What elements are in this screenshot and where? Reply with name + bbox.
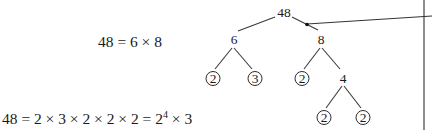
node-prime-2: 2 xyxy=(299,71,306,86)
edge-8-2 xyxy=(304,48,320,69)
node-6: 6 xyxy=(231,32,238,47)
factor-tree-diagram: 48 6 8 2 3 2 4 2 2 xyxy=(0,0,432,130)
annotation-pointer-line xyxy=(307,16,432,24)
node-prime-3: 3 xyxy=(252,71,259,86)
edge-4-2a xyxy=(326,86,342,108)
node-prime-2: 2 xyxy=(210,71,217,86)
node-root-48: 48 xyxy=(277,5,291,20)
annotation-dot xyxy=(305,23,309,27)
edge-8-4 xyxy=(322,48,340,69)
node-prime-2: 2 xyxy=(321,110,328,125)
edge-4-2b xyxy=(344,86,361,108)
node-8: 8 xyxy=(318,32,325,47)
edge-48-6 xyxy=(238,17,275,31)
node-4: 4 xyxy=(340,71,347,86)
node-prime-2: 2 xyxy=(360,110,367,125)
edge-6-3 xyxy=(234,48,252,69)
edge-6-2 xyxy=(215,48,232,69)
